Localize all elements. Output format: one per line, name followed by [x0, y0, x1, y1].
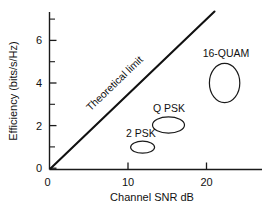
- x-tick-label-10: 10: [122, 176, 134, 188]
- y-axis-title: Efficiency (bits/s/Hz): [7, 41, 19, 140]
- series-label-16quam: 16-QUAM: [203, 47, 250, 59]
- y-tick-label-0: 0: [36, 162, 42, 174]
- theoretical-limit-label: Theoretical limit: [84, 53, 145, 113]
- marker-ellipse-qpsk: [153, 117, 185, 133]
- x-tick-label-20: 20: [200, 176, 212, 188]
- marker-ellipse-16quam: [209, 63, 239, 102]
- efficiency-vs-snr-chart: 0 2 4 6 0 10 20 Channel SNR dB Efficienc…: [0, 0, 272, 209]
- y-tick-label-4: 4: [36, 77, 42, 89]
- series-label-2psk: 2 PSK: [126, 127, 156, 139]
- marker-ellipse-2psk: [131, 141, 155, 153]
- y-tick-label-6: 6: [36, 34, 42, 46]
- x-axis-title: Channel SNR dB: [110, 191, 194, 203]
- y-tick-label-2: 2: [36, 120, 42, 132]
- x-tick-label-0: 0: [44, 176, 50, 188]
- series-label-qpsk: Q PSK: [153, 102, 185, 114]
- chart-canvas: 0 2 4 6 0 10 20 Channel SNR dB Efficienc…: [0, 0, 272, 209]
- theoretical-limit-line: [51, 12, 215, 169]
